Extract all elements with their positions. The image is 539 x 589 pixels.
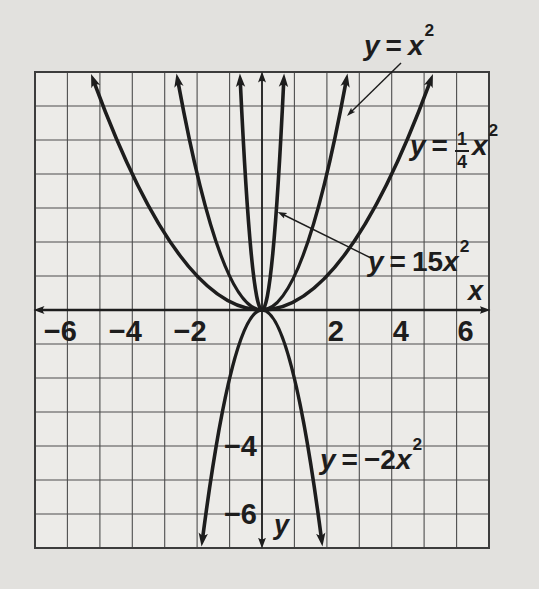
eq-lhs: y [364, 30, 380, 61]
eq-lhs: y [368, 246, 384, 277]
label-y-equals-15-x-squared: y=15x2 [368, 246, 469, 279]
fraction-one-quarter: 14 [455, 130, 469, 172]
x-tick-label: 2 [328, 315, 344, 347]
eq-equals: = [342, 444, 358, 475]
eq-lhs: y [410, 130, 426, 161]
fraction-numerator: 1 [455, 130, 469, 152]
x-tick-label: 4 [393, 315, 409, 347]
y-axis-label: y [274, 510, 289, 541]
eq-var: x [408, 30, 424, 61]
parabola-family-figure: −6−4−2246−4−6 y=x2 y=14x2 y=15x2 y=−2x2 … [0, 0, 539, 589]
x-tick-label: −2 [174, 315, 207, 347]
eq-lhs: y [320, 444, 336, 475]
eq-coefficient: 15 [412, 246, 443, 277]
eq-coefficient: −2 [364, 444, 396, 475]
eq-exponent: 2 [460, 236, 470, 256]
label-y-equals-quarter-x-squared: y=14x2 [410, 130, 498, 172]
fraction-denominator: 4 [455, 152, 469, 172]
eq-equals: = [432, 130, 448, 161]
x-tick-label: 6 [458, 315, 474, 347]
eq-var: x [443, 246, 459, 277]
eq-exponent: 2 [412, 434, 422, 454]
eq-var: x [396, 444, 412, 475]
eq-equals: = [390, 246, 406, 277]
x-tick-label: −6 [44, 315, 77, 347]
y-tick-label: −6 [224, 498, 257, 530]
x-tick-label: −4 [109, 315, 142, 347]
x-axis-label: x [468, 276, 483, 307]
eq-equals: = [386, 30, 402, 61]
eq-exponent: 2 [489, 120, 499, 140]
eq-exponent: 2 [425, 20, 435, 40]
y-tick-label: −4 [224, 430, 257, 462]
label-y-equals-neg2-x-squared: y=−2x2 [320, 444, 422, 477]
eq-var: x [472, 130, 488, 161]
label-y-equals-x-squared: y=x2 [364, 30, 434, 63]
graph-canvas: −6−4−2246−4−6 [0, 0, 539, 589]
